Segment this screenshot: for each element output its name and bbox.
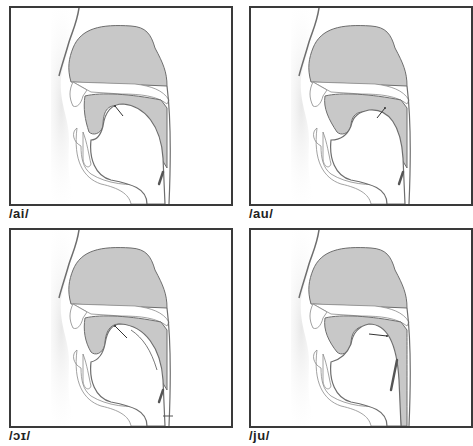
- panel-ju: /ju/: [249, 228, 473, 446]
- vocal-tract-au-illustration: [251, 8, 471, 204]
- vocal-tract-oi-illustration: [11, 230, 231, 426]
- panel-au: /au/: [249, 6, 473, 226]
- phoneme-label-au: /au/: [249, 206, 273, 221]
- vocal-tract-diagram-au: [249, 6, 473, 206]
- panel-ai: /ai/: [9, 6, 233, 226]
- vocal-tract-diagram-oi: [9, 228, 233, 428]
- vocal-tract-diagram-ju: [249, 228, 473, 428]
- vocal-tract-diagram-ai: [9, 6, 233, 206]
- phoneme-label-ju: /ju/: [249, 428, 270, 443]
- panel-oi: /ɔɪ/: [9, 228, 233, 446]
- vocal-tract-ju-illustration: [251, 230, 471, 426]
- vocal-tract-ai-illustration: [11, 8, 231, 204]
- phoneme-label-ai: /ai/: [9, 206, 29, 221]
- phoneme-label-oi: /ɔɪ/: [9, 428, 31, 443]
